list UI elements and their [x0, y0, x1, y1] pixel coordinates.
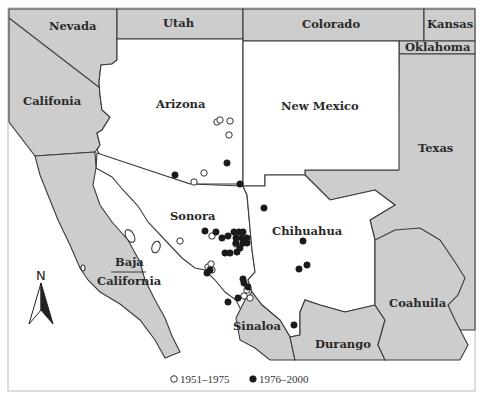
label-kansas: Kansas [427, 17, 473, 31]
legend-label-1976-2000: 1976–2000 [259, 373, 309, 385]
point-marker-1951-1975 [177, 238, 183, 244]
label-california-baja: California [97, 274, 162, 288]
label-texas: Texas [418, 141, 453, 155]
map-canvas: Nevada Utah Colorado Kansas Oklahoma Cal… [0, 0, 480, 400]
map-figure: Nevada Utah Colorado Kansas Oklahoma Cal… [0, 0, 480, 400]
point-marker-1976-2000 [225, 233, 231, 239]
point-marker-1976-2000 [237, 181, 243, 187]
label-arizona: Arizona [155, 97, 206, 111]
region-new-mexico [243, 41, 399, 186]
north-label: N [36, 268, 46, 283]
point-marker-1976-2000 [207, 267, 213, 273]
legend-label-1951-1975: 1951–1975 [180, 373, 230, 385]
label-chihuahua: Chihuahua [272, 224, 343, 238]
point-marker-1976-2000 [291, 322, 297, 328]
point-marker-1951-1975 [201, 170, 207, 176]
label-baja: Baja [115, 255, 144, 269]
label-utah: Utah [163, 16, 195, 30]
label-new-mexico: New Mexico [281, 99, 359, 113]
legend-filled-circle-icon [250, 376, 257, 383]
point-marker-1976-2000 [235, 295, 241, 301]
point-marker-1976-2000 [219, 235, 225, 241]
point-marker-1976-2000 [296, 266, 302, 272]
point-marker-1976-2000 [244, 240, 250, 246]
label-sonora: Sonora [170, 209, 216, 223]
island-pacific [81, 265, 85, 271]
label-durango: Durango [315, 337, 371, 351]
point-marker-1951-1975 [227, 118, 233, 124]
point-marker-1976-2000 [172, 172, 178, 178]
label-sinaloa: Sinaloa [233, 319, 282, 333]
label-coahuila: Coahuila [389, 296, 447, 310]
legend-open-circle-icon [171, 376, 178, 383]
point-marker-1976-2000 [240, 229, 246, 235]
label-colorado: Colorado [302, 17, 360, 31]
point-marker-1976-2000 [227, 250, 233, 256]
point-marker-1951-1975 [247, 295, 253, 301]
point-marker-1951-1975 [208, 261, 214, 267]
point-marker-1951-1975 [217, 117, 223, 123]
point-marker-1976-2000 [202, 228, 208, 234]
point-marker-1976-2000 [245, 284, 251, 290]
label-california: Califonia [23, 94, 82, 108]
point-marker-1951-1975 [191, 179, 197, 185]
label-oklahoma: Oklahoma [405, 40, 471, 54]
point-marker-1976-2000 [300, 238, 306, 244]
point-marker-1976-2000 [261, 205, 267, 211]
point-marker-1951-1975 [226, 132, 232, 138]
point-marker-1976-2000 [234, 249, 240, 255]
point-marker-1976-2000 [224, 160, 230, 166]
point-marker-1976-2000 [225, 299, 231, 305]
point-marker-1976-2000 [213, 229, 219, 235]
point-marker-1976-2000 [304, 262, 310, 268]
label-nevada: Nevada [49, 19, 97, 33]
point-marker-1951-1975 [241, 293, 247, 299]
